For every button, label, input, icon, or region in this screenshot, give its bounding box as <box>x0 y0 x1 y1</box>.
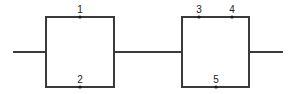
node-dot-icon <box>230 15 233 18</box>
node-label: 4 <box>229 4 235 15</box>
node-dot-icon <box>78 15 81 18</box>
node-label: 3 <box>196 4 202 15</box>
series-parallel-diagram: 12345 <box>0 0 296 94</box>
node-dot-icon <box>197 15 200 18</box>
node-label: 5 <box>213 74 219 85</box>
node-label: 2 <box>77 74 83 85</box>
node-label: 1 <box>77 4 83 15</box>
node-dot-icon <box>214 85 217 88</box>
node-dot-icon <box>78 85 81 88</box>
